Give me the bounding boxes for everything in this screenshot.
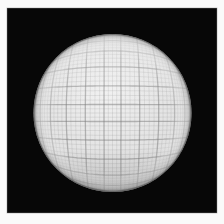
sphere-photograph — [0, 0, 224, 224]
photograph — [0, 0, 224, 224]
